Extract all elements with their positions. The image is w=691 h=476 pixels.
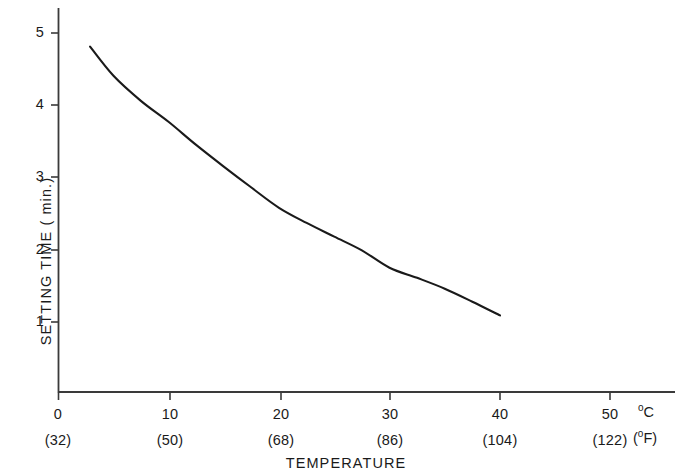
x-tick-label-fahrenheit-104: (104)	[465, 432, 535, 448]
x-tick-label-fahrenheit-50: (50)	[135, 432, 205, 448]
setting-time-vs-temperature-chart: 5 4 3 2 1 0 10 20 30 40 50 oC (32) (50) …	[0, 0, 691, 476]
plot-area-svg	[0, 0, 691, 476]
x-axis-unit-celsius: oC	[638, 404, 654, 420]
x-tick-label-celsius-40: 40	[472, 406, 528, 422]
x-tick-label-celsius-50: 50	[582, 406, 638, 422]
x-tick-label-celsius-30: 30	[362, 406, 418, 422]
x-tick-label-celsius-10: 10	[142, 406, 198, 422]
x-tick-label-fahrenheit-68: (68)	[246, 432, 316, 448]
y-tick-label-4: 4	[22, 96, 44, 112]
x-tick-label-fahrenheit-32: (32)	[23, 432, 93, 448]
x-tick-label-celsius-0: 0	[30, 406, 86, 422]
data-curve-setting-time	[90, 47, 500, 316]
x-tick-label-celsius-20: 20	[253, 406, 309, 422]
fahrenheit-letter: F)	[643, 430, 657, 446]
x-axis-unit-fahrenheit: (oF)	[633, 430, 657, 446]
y-tick-label-5: 5	[22, 24, 44, 40]
x-tick-label-fahrenheit-86: (86)	[355, 432, 425, 448]
x-axis-title: TEMPERATURE	[276, 455, 416, 471]
x-axis-ticks	[59, 392, 611, 400]
y-axis-title: SETTING TIME ( min.)	[38, 146, 54, 376]
celsius-letter: C	[644, 404, 654, 420]
